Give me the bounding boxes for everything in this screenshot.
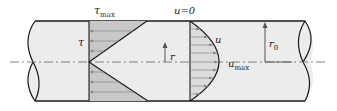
pipe-flow-diagram: τmax τ r u=0 u umax r0 xyxy=(0,0,337,111)
u-label: u xyxy=(215,34,221,45)
tau-max-label: τmax xyxy=(94,4,115,19)
tau-label: τ xyxy=(78,36,85,49)
u-zero-label: u=0 xyxy=(174,5,196,16)
